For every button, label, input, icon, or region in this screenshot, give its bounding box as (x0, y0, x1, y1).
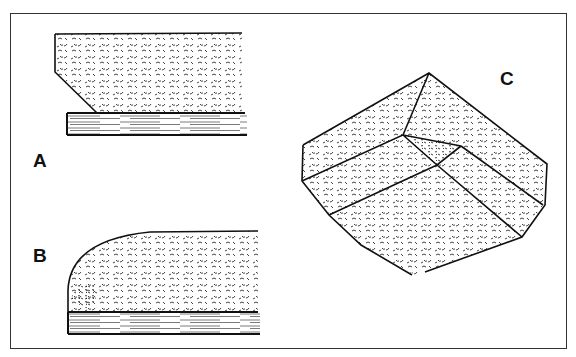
panel-a-label: A (33, 150, 47, 172)
panel-a-drawing (55, 33, 247, 135)
panel-b-label: B (33, 245, 47, 267)
illustration (0, 0, 576, 357)
panel-c-drawing (302, 73, 547, 275)
panel-c-label: C (500, 68, 514, 90)
panel-b-drawing (68, 231, 260, 334)
